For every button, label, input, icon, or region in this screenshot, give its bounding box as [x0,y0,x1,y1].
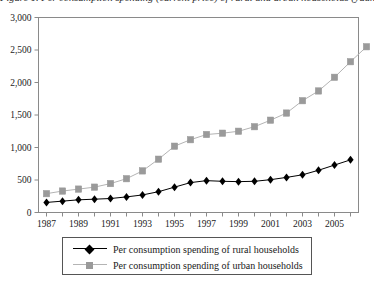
x-tick-label: 2001 [261,219,280,229]
legend-label-urban: Per consumption spending of urban househ… [113,260,303,271]
y-tick-label: 3,000 [10,13,32,23]
chart-legend: Per consumption spending of rural househ… [62,237,312,275]
x-tick-label: 2005 [325,219,344,229]
chart-figure: Figure 1. Per consumption spending (curr… [0,0,374,282]
urban-data-point [139,168,145,174]
urban-data-point [363,44,369,50]
urban-data-point [155,156,161,162]
y-tick-label: 2,500 [10,45,32,55]
plot-area: 05001,0001,5002,0002,5003,00019871989199… [0,0,374,232]
y-tick-label: 0 [27,208,32,218]
urban-data-point [251,124,257,130]
legend-sample-rural [73,243,107,255]
legend-sample-urban [73,259,107,271]
urban-data-point [331,74,337,80]
x-tick-label: 1995 [165,219,184,229]
x-tick-label: 1989 [69,219,88,229]
x-tick-label: 2003 [293,219,312,229]
urban-data-point [171,143,177,149]
plot-frame [39,18,359,213]
y-tick-label: 500 [17,175,32,185]
y-tick-label: 1,000 [10,143,32,153]
x-tick-label: 1991 [101,219,120,229]
urban-data-point [75,186,81,192]
x-tick-label: 1999 [229,219,248,229]
legend-item-urban: Per consumption spending of urban househ… [63,257,311,273]
urban-data-point [187,137,193,143]
line-chart-svg: 05001,0001,5002,0002,5003,00019871989199… [0,0,374,232]
urban-data-point [203,131,209,137]
urban-data-point [235,128,241,134]
urban-data-point [299,98,305,104]
urban-data-point [219,130,225,136]
rural-diamond-icon [85,244,95,254]
legend-item-rural: Per consumption spending of rural househ… [63,241,311,257]
x-tick-label: 1987 [37,219,56,229]
x-tick-label: 1993 [133,219,152,229]
urban-data-point [91,184,97,190]
urban-square-icon [86,262,93,269]
y-tick-label: 1,500 [10,110,32,120]
urban-data-point [123,176,129,182]
urban-data-point [43,190,49,196]
urban-data-point [107,180,113,186]
x-tick-label: 1997 [197,219,216,229]
urban-data-point [267,117,273,123]
urban-data-point [347,59,353,65]
urban-data-point [59,188,65,194]
y-tick-label: 2,000 [10,78,32,88]
urban-data-point [315,88,321,94]
urban-data-point [283,110,289,116]
legend-label-rural: Per consumption spending of rural househ… [113,244,299,255]
